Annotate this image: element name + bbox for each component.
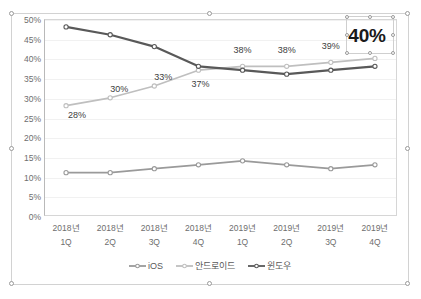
resize-handle-icon[interactable] (9, 146, 14, 151)
chart-selection-frame (11, 13, 409, 285)
resize-handle-icon[interactable] (405, 11, 410, 16)
resize-handle-icon[interactable] (405, 281, 410, 286)
resize-handle-icon[interactable] (207, 281, 212, 286)
chart-object[interactable]: 0%5%10%15%20%25%30%35%40%45%50% 28%30%33… (11, 13, 409, 285)
resize-handle-icon[interactable] (405, 146, 410, 151)
resize-handle-icon[interactable] (9, 11, 14, 16)
resize-handle-icon[interactable] (9, 281, 14, 286)
resize-handle-icon[interactable] (207, 11, 212, 16)
